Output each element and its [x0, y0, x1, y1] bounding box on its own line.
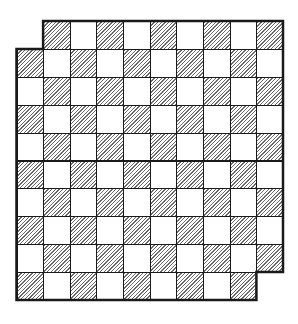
light-square [176, 244, 204, 273]
dark-square [176, 216, 204, 245]
light-square [123, 21, 151, 50]
dark-square [70, 105, 98, 134]
dark-square [230, 272, 258, 301]
light-square [230, 244, 258, 273]
light-square [256, 49, 284, 78]
light-square [230, 188, 258, 217]
light-square [96, 272, 124, 301]
light-square [70, 188, 98, 217]
light-square [123, 188, 151, 217]
dark-square [96, 77, 124, 106]
dark-square [203, 244, 231, 273]
dark-square [150, 77, 178, 106]
dark-square [256, 77, 284, 106]
dark-square [123, 161, 151, 190]
light-square [256, 216, 284, 245]
dark-square [17, 272, 45, 301]
dark-square [70, 216, 98, 245]
dark-square [176, 272, 204, 301]
dark-square [96, 21, 124, 50]
dark-square [203, 133, 231, 162]
light-square [123, 133, 151, 162]
light-square [43, 216, 71, 245]
light-square [203, 49, 231, 78]
light-square [43, 272, 71, 301]
dark-square [17, 161, 45, 190]
light-square [123, 244, 151, 273]
light-square [17, 133, 45, 162]
dark-square [70, 272, 98, 301]
dark-square [43, 133, 71, 162]
dark-square [70, 49, 98, 78]
light-square [150, 49, 178, 78]
dark-square [230, 216, 258, 245]
light-square [17, 244, 45, 273]
dark-square [150, 244, 178, 273]
light-square [96, 161, 124, 190]
dark-square [17, 105, 45, 134]
dark-square [123, 105, 151, 134]
dark-square [256, 133, 284, 162]
dark-square [203, 188, 231, 217]
dark-square [17, 49, 45, 78]
dark-square [17, 216, 45, 245]
light-square [230, 77, 258, 106]
light-square [17, 77, 45, 106]
light-square [17, 188, 45, 217]
light-square [150, 105, 178, 134]
dark-square [96, 244, 124, 273]
dark-square [230, 161, 258, 190]
light-square [176, 133, 204, 162]
dark-square [150, 21, 178, 50]
light-square [96, 216, 124, 245]
dark-square [43, 244, 71, 273]
dark-square [150, 133, 178, 162]
light-square [70, 77, 98, 106]
light-square [203, 105, 231, 134]
dark-square [256, 188, 284, 217]
light-square [176, 21, 204, 50]
dark-square [123, 216, 151, 245]
dark-square [176, 161, 204, 190]
dark-square [123, 272, 151, 301]
dark-square [123, 49, 151, 78]
light-square [256, 105, 284, 134]
dark-square [96, 188, 124, 217]
mutilated-checkerboard [0, 0, 298, 324]
light-square [150, 272, 178, 301]
light-square [150, 216, 178, 245]
dark-square [230, 49, 258, 78]
light-square [203, 216, 231, 245]
dark-square [203, 77, 231, 106]
light-square [150, 161, 178, 190]
light-square [70, 21, 98, 50]
light-square [96, 49, 124, 78]
light-square [43, 105, 71, 134]
dark-square [43, 21, 71, 50]
dark-square [70, 161, 98, 190]
light-square [43, 49, 71, 78]
light-square [70, 133, 98, 162]
light-square [176, 188, 204, 217]
dark-square [256, 21, 284, 50]
light-square [43, 161, 71, 190]
dark-square [256, 244, 284, 273]
light-square [176, 77, 204, 106]
light-square [203, 161, 231, 190]
light-square [256, 161, 284, 190]
dark-square [43, 77, 71, 106]
dark-square [150, 188, 178, 217]
light-square [123, 77, 151, 106]
dark-square [176, 105, 204, 134]
light-square [230, 21, 258, 50]
dark-square [230, 105, 258, 134]
dark-square [96, 133, 124, 162]
dark-square [176, 49, 204, 78]
dark-square [203, 21, 231, 50]
light-square [203, 272, 231, 301]
light-square [70, 244, 98, 273]
light-square [230, 133, 258, 162]
dark-square [43, 188, 71, 217]
light-square [96, 105, 124, 134]
